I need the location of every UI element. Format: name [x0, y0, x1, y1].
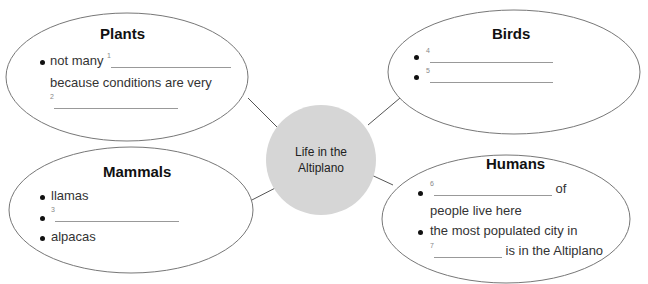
humans-title: Humans — [486, 155, 545, 172]
blank-number-5: 5 — [426, 67, 430, 74]
bullet — [40, 195, 45, 200]
bullet — [418, 191, 423, 196]
bullet — [40, 216, 45, 221]
answer-blank-2[interactable] — [54, 96, 178, 109]
humans-bullet2-text: the most populated city in — [430, 223, 577, 238]
humans-bullet1-continued: people live here — [430, 203, 522, 218]
answer-blank-1[interactable] — [111, 55, 231, 68]
humans-blank7-line: 7 is in the Altiplano — [430, 243, 603, 258]
answer-blank-6[interactable] — [434, 183, 552, 196]
center-label-line2: Altiplano — [298, 160, 344, 176]
mammals-item-alpacas: alpacas — [51, 229, 96, 244]
plants-bullet1-continued: because conditions are very — [50, 75, 212, 90]
birds-blank5-line: 5 — [426, 68, 553, 83]
bullet — [418, 230, 423, 235]
plants-title: Plants — [100, 25, 145, 42]
answer-blank-3[interactable] — [55, 209, 179, 222]
humans-bullet1: 6 of — [430, 181, 566, 196]
mammals-title: Mammals — [103, 163, 171, 180]
humans-bullet1-after: of — [556, 181, 567, 196]
answer-blank-5[interactable] — [430, 70, 553, 83]
bullet — [414, 75, 419, 80]
blank-number-6: 6 — [430, 180, 434, 187]
humans-bullet2-after: is in the Altiplano — [506, 243, 604, 258]
center-label-line1: Life in the — [295, 144, 347, 160]
humans-ellipse — [382, 155, 630, 283]
blank-number-4: 4 — [426, 47, 430, 54]
center-topic: Life in the Altiplano — [266, 105, 376, 215]
bullet — [40, 236, 45, 241]
bullet — [40, 60, 45, 65]
birds-blank4-line: 4 — [426, 48, 553, 63]
mammals-blank3-line: 3 — [51, 207, 179, 222]
birds-title: Birds — [492, 25, 530, 42]
bullet — [414, 55, 419, 60]
answer-blank-7[interactable] — [434, 245, 502, 258]
blank-number-1: 1 — [107, 52, 111, 59]
blank-number-7: 7 — [430, 242, 434, 249]
blank-number-3: 3 — [51, 206, 55, 213]
plants-bullet1-text: not many — [50, 53, 103, 68]
blank-number-2: 2 — [50, 93, 54, 100]
answer-blank-4[interactable] — [430, 50, 553, 63]
plants-bullet1: not many 1 — [50, 53, 231, 68]
plants-blank2-line: 2 — [50, 94, 178, 109]
mammals-item-llamas: llamas — [51, 188, 89, 203]
